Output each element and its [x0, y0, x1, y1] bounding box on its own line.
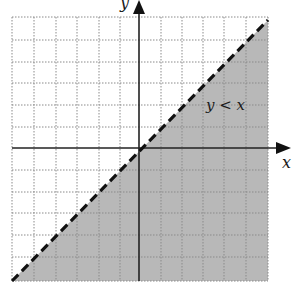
- y-axis-arrow-icon: [133, 0, 145, 14]
- inequality-label: y < x: [205, 96, 246, 114]
- y-axis-label: y: [119, 0, 130, 12]
- inequality-graph: x y y < x: [0, 0, 293, 288]
- x-axis-label: x: [282, 153, 291, 172]
